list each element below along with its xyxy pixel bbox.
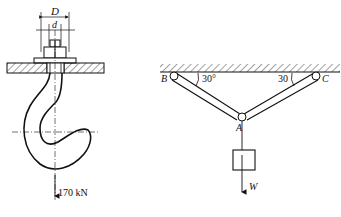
angle-right-label: 30 [278,73,288,84]
hook-body [24,73,91,169]
label-C: C [322,73,329,84]
weight-label: W [249,181,259,192]
truss-figure: B C A 30° 30 W [160,64,340,192]
dimension-D-label: D [50,5,59,17]
ceiling [160,64,340,72]
label-B: B [161,73,167,84]
pin-B [170,72,178,80]
angle-arc-right [291,73,294,86]
hook-figure: D d 170 kN [7,5,104,200]
pin-C [312,72,320,80]
angle-left-label: 30° [202,73,216,84]
diagram-canvas: D d 170 kN [0,0,341,217]
pin-A [238,113,246,121]
load-label: 170 kN [58,187,88,198]
dimension-d-label: d [52,19,58,30]
angle-arc-left [196,73,199,86]
support-plate [7,63,104,73]
weight-block [233,150,255,170]
